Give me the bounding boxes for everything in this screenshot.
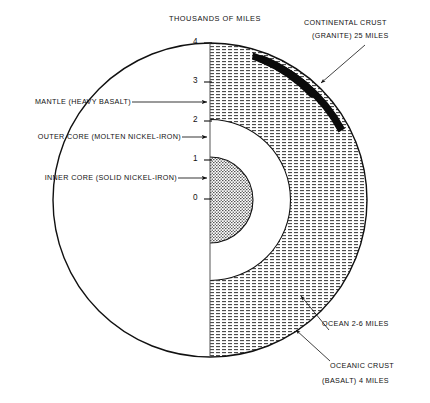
axis-tick-3: 3 bbox=[193, 76, 198, 85]
label-continental-crust-line2: (GRANITE) 25 MILES bbox=[312, 31, 389, 41]
label-outer-core: OUTER CORE (MOLTEN NICKEL-IRON) bbox=[0, 132, 181, 142]
axis-tick-1: 1 bbox=[193, 154, 198, 163]
axis-tick-4: 4 bbox=[193, 37, 198, 46]
axis-tick-0: 0 bbox=[193, 193, 198, 202]
axis-tick-2: 2 bbox=[193, 115, 198, 124]
label-oceanic-crust-line2: (BASALT) 4 MILES bbox=[322, 376, 389, 386]
label-oceanic-crust-line1: OCEANIC CRUST bbox=[330, 361, 394, 371]
label-mantle: MANTLE (HEAVY BASALT) bbox=[0, 97, 131, 107]
label-inner-core: INNER CORE (SOLID NICKEL-IRON) bbox=[0, 173, 177, 183]
earth-cross-section-diagram bbox=[0, 0, 430, 403]
label-continental-crust-line1: CONTINENTAL CRUST bbox=[304, 18, 387, 28]
label-ocean: OCEAN 2-6 MILES bbox=[322, 319, 389, 329]
